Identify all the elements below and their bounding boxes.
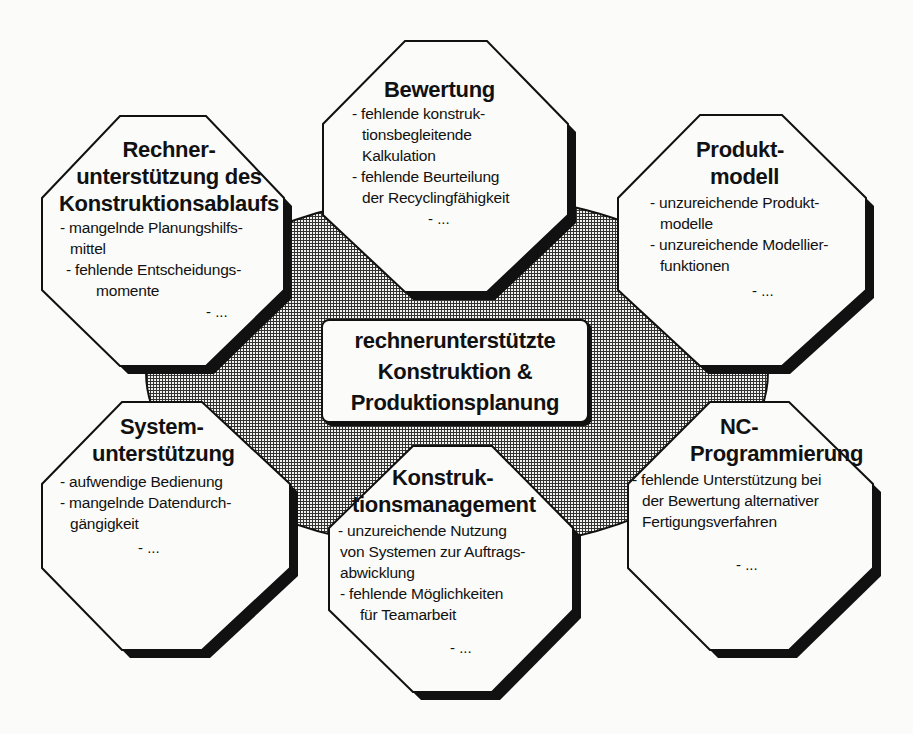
box-title-line: modell xyxy=(650,163,860,190)
box-item: - fehlende Beurteilung der Recyclingfähi… xyxy=(352,166,562,208)
box-item: - unzureichende Modellier- funktionen xyxy=(650,234,860,276)
box-systemunterstuetzung: System- unterstützung - aufwendige Bedie… xyxy=(60,413,280,559)
box-item-line: funktionen xyxy=(650,255,860,276)
box-title-line: System- xyxy=(60,413,280,440)
box-title-line: unterstützung xyxy=(60,440,280,467)
box-nc-programmierung: NC- Programmierung - fehlende Unterstütz… xyxy=(632,413,872,576)
box-item-line: abwicklung xyxy=(338,562,570,583)
center-topic-line-1: rechnerunterstützte xyxy=(355,325,556,356)
box-konstruktionsmanagement: Konstruk- tionsmanagement - unzureichend… xyxy=(338,464,570,659)
box-more-ellipsis: - ... xyxy=(338,637,570,659)
box-item-line: von Systemen zur Auftrags- xyxy=(338,541,570,562)
center-topic-box: rechnerunterstützte Konstruktion & Produ… xyxy=(321,319,589,423)
box-item: - mangelnde Datendurch- gängigkeit xyxy=(60,492,280,534)
box-item-line: für Teamarbeit xyxy=(338,604,570,625)
diagram-canvas: rechnerunterstützte Konstruktion & Produ… xyxy=(0,0,913,734)
box-item-line: gängigkeit xyxy=(60,513,280,534)
box-item-line: - fehlende konstruk- xyxy=(352,103,562,124)
box-item-line: mittel xyxy=(60,238,280,259)
box-produktmodell: Produkt- modell - unzureichende Produkt-… xyxy=(650,136,860,302)
box-item-line: - aufwendige Bedienung xyxy=(60,471,280,492)
box-more-ellipsis: - ... xyxy=(632,554,872,576)
box-more-ellipsis: - ... xyxy=(352,208,562,230)
box-item-line: der Bewertung alternativer xyxy=(632,490,872,511)
box-item-line: Fertigungsverfahren xyxy=(632,511,872,532)
box-item-line: der Recyclingfähigkeit xyxy=(352,187,562,208)
box-title-line: Programmierung xyxy=(632,440,872,467)
box-item-line: - mangelnde Datendurch- xyxy=(60,492,280,513)
box-title-line: Konstruktionsablaufs xyxy=(58,190,280,217)
box-item-line: - mangelnde Planungshilfs- xyxy=(60,217,280,238)
box-item-line: - unzureichende Modellier- xyxy=(650,234,860,255)
box-item-line: momente xyxy=(66,280,280,301)
box-title-line: Rechner- xyxy=(58,136,280,163)
box-title-line: Produkt- xyxy=(650,136,860,163)
box-item-line: - fehlende Entscheidungs- xyxy=(66,259,280,280)
box-item-line: - unzureichende Nutzung xyxy=(338,520,570,541)
box-item: - unzureichende Nutzung von Systemen zur… xyxy=(338,520,570,583)
box-item-line: - fehlende Beurteilung xyxy=(352,166,562,187)
box-item: - fehlende konstruk- tionsbegleitende Ka… xyxy=(352,103,562,166)
center-topic-line-3: Produktionsplanung xyxy=(351,387,559,418)
box-bewertung: Bewertung - fehlende konstruk- tionsbegl… xyxy=(352,76,562,230)
box-item: - mangelnde Planungshilfs- mittel xyxy=(60,217,280,259)
box-more-ellipsis: - ... xyxy=(60,537,280,559)
box-rechnerunterstuetzung: Rechner- unterstützung des Konstruktions… xyxy=(58,136,280,323)
box-item: - unzureichende Produkt- modelle xyxy=(650,192,860,234)
box-item-line: - unzureichende Produkt- xyxy=(650,192,860,213)
box-title-line: Bewertung xyxy=(352,76,562,103)
box-item-line: - fehlende Möglichkeiten xyxy=(338,583,570,604)
box-title-line: tionsmanagement xyxy=(338,491,570,518)
box-more-ellipsis: - ... xyxy=(58,301,280,323)
box-title-line: Konstruk- xyxy=(338,464,570,491)
box-item: - fehlende Möglichkeiten für Teamarbeit xyxy=(338,583,570,625)
box-item: - aufwendige Bedienung xyxy=(60,471,280,492)
box-item: - fehlende Unterstützung bei der Bewertu… xyxy=(632,469,872,532)
box-item-line: - fehlende Unterstützung bei xyxy=(632,469,872,490)
center-topic-line-2: Konstruktion & xyxy=(378,356,533,387)
box-more-ellipsis: - ... xyxy=(650,280,860,302)
box-title-line: NC- xyxy=(632,413,872,440)
box-title-line: unterstützung des xyxy=(58,163,280,190)
box-item-line: modelle xyxy=(650,213,860,234)
box-item-line: Kalkulation xyxy=(352,145,562,166)
box-item-line: tionsbegleitende xyxy=(352,124,562,145)
box-item: - fehlende Entscheidungs- momente xyxy=(66,259,280,301)
